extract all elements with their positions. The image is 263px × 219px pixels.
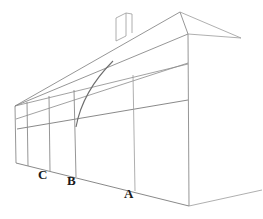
curved-brace-line [76,61,113,127]
wall-rail-perspective-line [17,100,188,129]
roof-ridge-line [15,12,180,106]
label-a: A [124,187,133,200]
roof-group [15,12,241,106]
perspective-sketch-figure: C B A [0,0,263,219]
ground-base-right-line [189,190,262,206]
chimney-top-line [116,13,132,18]
post-c [49,96,50,171]
post-left-end [15,106,16,163]
base-lines-group [16,163,262,206]
label-b: B [67,174,76,187]
chimney-bottom-line [116,36,126,41]
chimney-group [116,13,132,41]
label-c: C [38,168,47,181]
post-b [74,90,76,177]
curve-group [76,61,113,127]
post-a [133,75,135,191]
post-right-end [188,34,189,206]
post-second [27,102,28,166]
